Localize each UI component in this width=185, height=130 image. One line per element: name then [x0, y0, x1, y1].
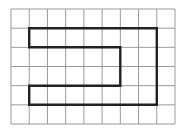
- grid-diagram: [0, 0, 185, 130]
- grid-lines: [11, 9, 175, 124]
